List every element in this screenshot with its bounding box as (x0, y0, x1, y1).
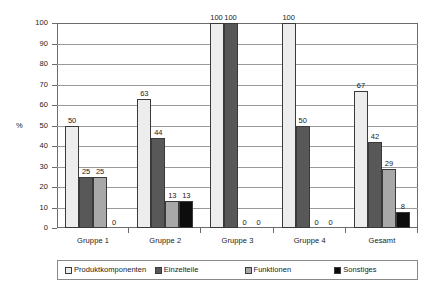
bar[interactable] (210, 23, 224, 228)
legend-item[interactable]: Funktionen (238, 266, 328, 274)
bar-slot: 13 (179, 23, 193, 228)
bar-slot: 25 (79, 23, 93, 228)
bar-value-label: 100 (224, 14, 237, 22)
x-axis-category-text: Gruppe 1 (77, 236, 109, 245)
y-axis-tick-label: 40 (39, 142, 48, 150)
legend-swatch-icon (245, 267, 252, 274)
bar-group: 10010000 (201, 23, 273, 228)
legend-item[interactable]: Sonstiges (327, 266, 417, 274)
bar-value-label: 29 (385, 160, 393, 168)
bar-chart: % 1009080706050403020100 502525063441313… (0, 0, 448, 294)
y-axis-tick-label: 50 (39, 122, 48, 130)
bar-value-label: 13 (182, 192, 190, 200)
bar-group-bars: 63441313 (129, 23, 201, 228)
bar-group-bars: 1005000 (274, 23, 346, 228)
x-axis-category-label: Gruppe 1 (57, 228, 129, 248)
y-axis-tick-label: 20 (39, 183, 48, 191)
bar-slot: 29 (382, 23, 396, 228)
bar-group: 63441313 (129, 23, 201, 228)
bar[interactable] (65, 126, 79, 229)
bar-value-label: 0 (329, 219, 333, 227)
bar-value-label: 0 (256, 219, 260, 227)
x-axis-category-text: Gruppe 2 (149, 236, 181, 245)
bar-group-bars: 6742298 (346, 23, 418, 228)
bar-slot: 67 (354, 23, 368, 228)
bar-value-label: 44 (154, 129, 162, 137)
y-axis-tick-label: 70 (39, 81, 48, 89)
y-axis-tick-label: 90 (39, 40, 48, 48)
bar[interactable] (224, 23, 238, 228)
legend-item-label: Einzelteile (164, 266, 199, 274)
x-axis-category-label: Gruppe 3 (201, 228, 273, 248)
legend-swatch-icon (65, 267, 72, 274)
bar-value-label: 0 (315, 219, 319, 227)
bar-group-bars: 5025250 (57, 23, 129, 228)
legend-item-label: Funktionen (254, 266, 292, 274)
bar-group-bars: 10010000 (201, 23, 273, 228)
bar-slot: 63 (137, 23, 151, 228)
x-axis-category-label: Gruppe 4 (274, 228, 346, 248)
bar-value-label: 67 (357, 82, 365, 90)
bar-slot: 13 (165, 23, 179, 228)
bar-groups: 5025250634413131001000010050006742298 (57, 23, 418, 228)
legend-item[interactable]: Produktkomponenten (58, 266, 148, 274)
bar-value-label: 50 (299, 117, 307, 125)
bar-slot: 0 (310, 23, 324, 228)
y-axis-tick-label: 0 (44, 224, 48, 232)
bar[interactable] (354, 91, 368, 228)
y-axis-tick-label: 80 (39, 60, 48, 68)
bar-slot: 0 (252, 23, 266, 228)
bar-group: 5025250 (57, 23, 129, 228)
bar-slot: 8 (396, 23, 410, 228)
bar-value-label: 63 (140, 90, 148, 98)
bar-slot: 100 (210, 23, 224, 228)
bar-slot: 0 (238, 23, 252, 228)
bar-value-label: 8 (401, 203, 405, 211)
bar-slot: 42 (368, 23, 382, 228)
bar-slot: 50 (296, 23, 310, 228)
y-axis-title: % (16, 122, 23, 130)
bar-value-label: 0 (112, 219, 116, 227)
bar-value-label: 25 (82, 168, 90, 176)
bar-slot: 0 (107, 23, 121, 228)
bar[interactable] (79, 177, 93, 228)
x-axis-category-label: Gesamt (346, 228, 418, 248)
legend-item[interactable]: Einzelteile (148, 266, 238, 274)
bar-value-label: 100 (282, 14, 295, 22)
bar[interactable] (179, 201, 193, 228)
bar[interactable] (165, 201, 179, 228)
bar[interactable] (282, 23, 296, 228)
bar[interactable] (396, 212, 410, 228)
bar[interactable] (296, 126, 310, 229)
bar[interactable] (137, 99, 151, 228)
bar-group: 6742298 (346, 23, 418, 228)
chart-legend: ProduktkomponentenEinzelteileFunktionenS… (57, 260, 418, 280)
bar[interactable] (382, 169, 396, 228)
bar-slot: 100 (282, 23, 296, 228)
bar-value-label: 50 (68, 117, 76, 125)
bar-group: 1005000 (274, 23, 346, 228)
legend-swatch-icon (334, 267, 341, 274)
bar-value-label: 25 (96, 168, 104, 176)
bar-slot: 25 (93, 23, 107, 228)
legend-swatch-icon (155, 267, 162, 274)
bar-value-label: 42 (371, 133, 379, 141)
bar-value-label: 0 (242, 219, 246, 227)
legend-item-label: Produktkomponenten (74, 266, 146, 274)
bar-value-label: 13 (168, 192, 176, 200)
bar[interactable] (368, 142, 382, 228)
bar[interactable] (151, 138, 165, 228)
y-axis-tick-label: 100 (35, 19, 48, 27)
bar-slot: 100 (224, 23, 238, 228)
legend-item-label: Sonstiges (343, 266, 376, 274)
x-axis-category-text: Gesamt (368, 236, 395, 245)
x-axis-tick-mark (417, 228, 418, 233)
y-axis-tick-label: 30 (39, 163, 48, 171)
x-axis-category-text: Gruppe 4 (294, 236, 326, 245)
y-axis-tick-label: 10 (39, 204, 48, 212)
x-axis: Gruppe 1Gruppe 2Gruppe 3Gruppe 4Gesamt (57, 228, 418, 248)
y-axis-tick-label: 60 (39, 101, 48, 109)
bar[interactable] (93, 177, 107, 228)
bar-slot: 50 (65, 23, 79, 228)
bar-value-label: 100 (210, 14, 223, 22)
